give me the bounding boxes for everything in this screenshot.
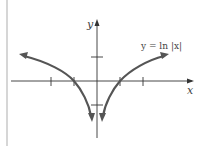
x-axis [11,79,194,84]
y-axis-label: y [86,18,94,31]
y-axis [95,19,100,138]
curve-label: y = ln |x| [140,41,182,52]
curve-left [19,52,95,122]
x-axis-label: x [187,84,194,97]
graph-figure: y x y = ln |x| [0,0,204,146]
curve-right [99,52,169,122]
